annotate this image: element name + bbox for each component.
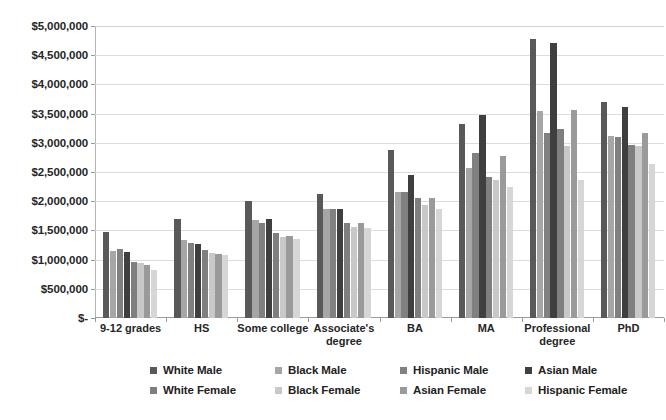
bar: [330, 209, 336, 318]
x-axis-tick-label: Associate's degree: [308, 322, 379, 348]
bar: [507, 187, 513, 318]
bar: [144, 265, 150, 318]
bar: [286, 236, 292, 318]
bar-group: [245, 26, 300, 318]
bar: [486, 177, 492, 318]
y-axis: $5,000,000$4,500,000$4,000,000$3,500,000…: [0, 0, 88, 420]
x-axis-tick-label: Some college: [237, 322, 308, 335]
bar-group: [601, 26, 656, 318]
y-axis-tick: [91, 260, 95, 261]
bar-group: [317, 26, 372, 318]
legend-item[interactable]: Black Female: [275, 380, 400, 400]
bar: [493, 180, 499, 318]
legend-item[interactable]: White Male: [150, 360, 275, 380]
bar: [117, 249, 123, 318]
y-axis-tick: [91, 26, 95, 27]
y-axis-tick-label: $4,500,000: [0, 49, 88, 61]
x-axis-tick-label: MA: [451, 322, 522, 335]
bar: [222, 255, 228, 318]
y-axis-tick-label: $3,500,000: [0, 108, 88, 120]
bar: [259, 223, 265, 318]
legend-label: White Female: [163, 384, 236, 396]
legend-item[interactable]: Hispanic Female: [525, 380, 650, 400]
bar: [323, 209, 329, 318]
bar: [601, 102, 607, 318]
legend-row: White MaleBlack MaleHispanic MaleAsian M…: [150, 360, 650, 380]
bar: [564, 146, 570, 318]
y-axis-tick-label: $500,000: [0, 283, 88, 295]
bar: [151, 270, 157, 318]
legend-label: Hispanic Female: [538, 384, 627, 396]
bar: [209, 253, 215, 318]
bar: [550, 43, 556, 318]
y-axis-tick-label: $2,000,000: [0, 195, 88, 207]
bar: [195, 244, 201, 318]
legend-label: Hispanic Male: [413, 364, 488, 376]
bar: [459, 124, 465, 318]
x-axis-tick-label: 9-12 grades: [95, 322, 166, 335]
bar: [530, 39, 536, 318]
bar: [131, 262, 137, 318]
bar: [364, 228, 370, 318]
legend-swatch-icon: [525, 387, 532, 394]
y-axis-tick: [91, 114, 95, 115]
legend-label: Black Male: [288, 364, 346, 376]
bar-group: [530, 26, 585, 318]
bar: [622, 107, 628, 318]
bar: [401, 192, 407, 318]
legend-item[interactable]: Black Male: [275, 360, 400, 380]
bar: [266, 219, 272, 318]
bar-group: [388, 26, 443, 318]
bar: [202, 250, 208, 318]
legend-item[interactable]: Asian Male: [525, 360, 650, 380]
y-axis-tick: [91, 230, 95, 231]
bar-group: [174, 26, 229, 318]
bar: [252, 220, 258, 318]
legend-swatch-icon: [150, 367, 157, 374]
bar: [479, 115, 485, 318]
bar: [571, 110, 577, 318]
y-axis-tick: [91, 289, 95, 290]
bar: [188, 243, 194, 318]
legend-swatch-icon: [525, 367, 532, 374]
y-axis-tick: [91, 84, 95, 85]
x-axis-tick-label: BA: [380, 322, 451, 335]
legend-item[interactable]: White Female: [150, 380, 275, 400]
bar: [280, 237, 286, 318]
chart-legend: White MaleBlack MaleHispanic MaleAsian M…: [150, 360, 650, 400]
bar: [500, 156, 506, 318]
bar: [557, 129, 563, 318]
x-axis-tick-label: Professional degree: [522, 322, 593, 348]
x-axis-tick-label: PhD: [593, 322, 664, 335]
bar: [415, 198, 421, 318]
bar: [215, 254, 221, 318]
y-axis-tick: [91, 143, 95, 144]
y-axis-tick-label: $2,500,000: [0, 166, 88, 178]
bar: [351, 227, 357, 318]
legend-label: Asian Female: [413, 384, 486, 396]
bar: [395, 192, 401, 318]
bar: [137, 263, 143, 318]
bar: [317, 194, 323, 318]
legend-swatch-icon: [150, 387, 157, 394]
legend-label: Asian Male: [538, 364, 597, 376]
bar: [103, 232, 109, 318]
legend-row: White FemaleBlack FemaleAsian FemaleHisp…: [150, 380, 650, 400]
bar: [124, 252, 130, 318]
y-axis-tick: [91, 201, 95, 202]
bar: [337, 209, 343, 318]
plot-area: [95, 26, 664, 318]
legend-label: White Male: [163, 364, 222, 376]
bar: [635, 146, 641, 318]
bar-chart: $5,000,000$4,500,000$4,000,000$3,500,000…: [0, 0, 666, 420]
bar: [642, 133, 648, 318]
legend-swatch-icon: [400, 367, 407, 374]
legend-item[interactable]: Asian Female: [400, 380, 525, 400]
legend-label: Black Female: [288, 384, 360, 396]
legend-item[interactable]: Hispanic Male: [400, 360, 525, 380]
y-axis-tick: [91, 55, 95, 56]
bar: [344, 223, 350, 318]
y-axis-tick-label: $4,000,000: [0, 78, 88, 90]
bar-group: [459, 26, 514, 318]
bar: [388, 150, 394, 318]
